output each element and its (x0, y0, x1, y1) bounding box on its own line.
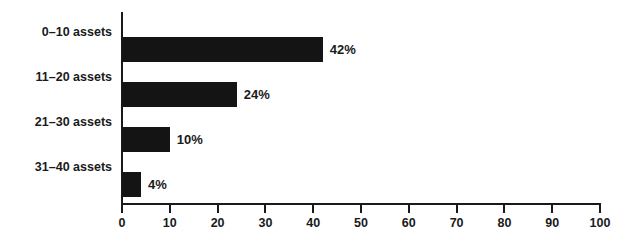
plot-area: 42% 24% 10% 4% (122, 12, 600, 203)
category-label-1: 11–20 assets (2, 70, 112, 84)
x-tick-7 (456, 205, 458, 213)
x-tick-label-6: 60 (402, 216, 416, 230)
x-tick-9 (551, 205, 553, 213)
x-tick-label-0: 0 (119, 216, 126, 230)
category-label-0: 0–10 assets (2, 25, 112, 39)
bar-chart: 0–10 assets 11–20 assets 21–30 assets 31… (0, 0, 633, 248)
bar-2 (122, 127, 170, 152)
x-tick-1 (169, 205, 171, 213)
category-label-2: 21–30 assets (2, 115, 112, 129)
bar-1 (122, 82, 237, 107)
x-tick-label-9: 90 (545, 216, 559, 230)
x-tick-6 (408, 205, 410, 213)
x-tick-2 (217, 205, 219, 213)
x-tick-8 (503, 205, 505, 213)
x-tick-4 (312, 205, 314, 213)
bar-3 (122, 172, 141, 197)
bar-value-label-1: 24% (237, 82, 270, 107)
bar-value-label-2: 10% (170, 127, 203, 152)
x-axis-ticks: 0102030405060708090100 (122, 205, 600, 248)
x-tick-label-4: 40 (306, 216, 320, 230)
x-tick-label-7: 70 (450, 216, 464, 230)
x-tick-label-5: 50 (354, 216, 368, 230)
x-tick-label-8: 80 (497, 216, 511, 230)
x-tick-10 (599, 205, 601, 213)
category-axis-labels: 0–10 assets 11–20 assets 21–30 assets 31… (0, 12, 112, 203)
bar-0 (122, 37, 323, 62)
bar-value-label-3: 4% (141, 172, 167, 197)
x-tick-0 (121, 205, 123, 213)
category-label-3: 31–40 assets (2, 160, 112, 174)
x-tick-label-1: 10 (163, 216, 177, 230)
x-tick-3 (264, 205, 266, 213)
x-tick-5 (360, 205, 362, 213)
x-tick-label-2: 20 (211, 216, 225, 230)
bar-value-label-0: 42% (323, 37, 356, 62)
x-tick-label-10: 100 (590, 216, 611, 230)
x-tick-label-3: 30 (258, 216, 272, 230)
